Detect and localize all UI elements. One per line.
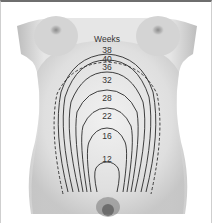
- label-week-32: 32: [102, 76, 111, 85]
- label-week-22: 22: [102, 112, 111, 121]
- label-week-28: 28: [102, 94, 111, 103]
- label-week-36: 36: [102, 63, 111, 72]
- label-week-12: 12: [102, 155, 111, 164]
- label-week-16: 16: [102, 132, 111, 141]
- weeks-title: Weeks: [94, 35, 120, 44]
- figure-frame: Weeks 38 40 36 32 28 22 16 12: [0, 0, 212, 223]
